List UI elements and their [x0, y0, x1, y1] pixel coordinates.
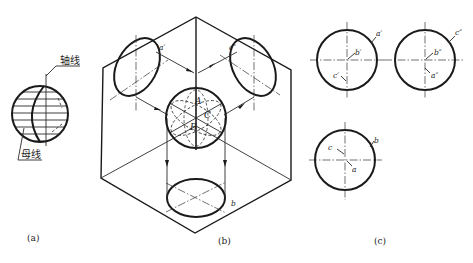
- arrow-icon: [223, 160, 227, 167]
- c-double-prime-label: c″: [229, 43, 236, 52]
- side-outline-label: c″: [455, 28, 462, 37]
- front-outline-label: a′: [376, 29, 382, 38]
- side-lower-label: a″: [431, 71, 438, 80]
- front-view: a′ b′ c′: [310, 22, 384, 98]
- side-view: c″ b″ a″: [384, 22, 463, 98]
- front-center-label: b′: [355, 48, 362, 57]
- caption-c: (c): [374, 236, 386, 246]
- top-lower-label: a: [352, 165, 356, 174]
- top-view: b c a: [309, 122, 382, 200]
- box-right-edge: [196, 126, 291, 180]
- caption-a: (a): [27, 233, 39, 243]
- arrow-icon: [209, 63, 215, 68]
- panel-b-isometric-projection: A B C a′ c″ b (b): [101, 17, 291, 246]
- point-C-label: C: [204, 110, 211, 120]
- top-ellipse-centerline-2: [166, 183, 226, 213]
- panel-a-sphere-generation: 轴线 母线 (a): [12, 54, 80, 243]
- top-ellipse-centerline-1: [166, 182, 226, 212]
- side-projection-ellipse: [221, 30, 285, 104]
- top-outline-label: b: [374, 136, 379, 145]
- box-left-edge: [101, 126, 196, 178]
- arrow-icon: [165, 160, 169, 167]
- side-ellipse-diagonal-centerline: [220, 55, 280, 95]
- point-A-label: A: [194, 96, 202, 106]
- b-label: b: [231, 199, 236, 208]
- axis-label: 轴线: [60, 54, 80, 66]
- arrow-icon: [154, 107, 161, 110]
- projector-side-lower: [224, 97, 254, 115]
- rotation-mark: [58, 98, 62, 108]
- sphere-projection-figure: 轴线 母线 (a): [0, 0, 473, 263]
- top-upper-label: c: [328, 143, 333, 152]
- a-prime-label: a′: [159, 43, 165, 52]
- generatrix-label: 母线: [21, 148, 41, 160]
- panel-c-orthographic-views: a′ b′ c′ c″ b″ a″ b c a: [309, 22, 463, 246]
- arrow-icon: [186, 68, 193, 72]
- point-B-label: B: [189, 122, 197, 132]
- side-center-label: b″: [434, 48, 442, 57]
- caption-b: (b): [218, 236, 231, 246]
- front-projection-ellipse: [105, 30, 169, 104]
- projector-front-lower: [136, 97, 168, 115]
- front-lower-label: c′: [333, 71, 339, 80]
- axis-leader: [46, 66, 80, 76]
- rotation-mark: [52, 124, 62, 132]
